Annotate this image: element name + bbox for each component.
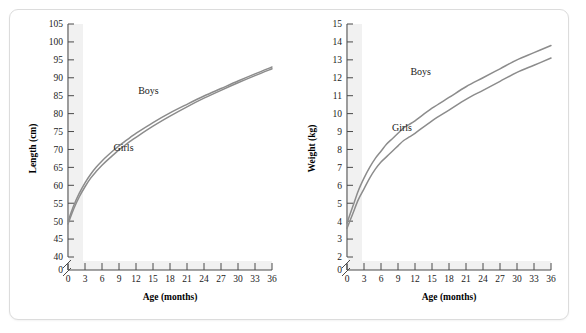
x-tick-label: 0	[66, 274, 71, 284]
x-tick-label: 15	[427, 274, 437, 284]
y-axis-title: Length (cm)	[28, 124, 39, 174]
x-tick-label: 18	[444, 274, 454, 284]
y-tick-label: 3	[337, 234, 342, 244]
weight-chart: 2345678910111213141500369121518212427303…	[289, 10, 569, 321]
x-tick-label: 21	[461, 274, 471, 284]
y-tick-label: 12	[333, 73, 343, 83]
y-tick-label: 65	[54, 163, 64, 173]
series-line-girls	[347, 58, 551, 228]
y-tick-label: 80	[54, 109, 64, 119]
x-tick-label: 18	[165, 274, 175, 284]
y-tick-label: 11	[333, 91, 342, 101]
series-label-girls: Girls	[114, 142, 134, 153]
x-tick-label: 9	[396, 274, 401, 284]
y-tick-label: 50	[54, 217, 64, 227]
y-tick-label: 15	[333, 19, 343, 29]
y-tick-label: 9	[337, 127, 342, 137]
x-tick-label: 15	[148, 274, 158, 284]
y-tick-label: 105	[49, 19, 64, 29]
y-axis-title: Weight (kg)	[307, 125, 318, 173]
x-tick-label: 33	[529, 274, 539, 284]
series-line-girls	[68, 69, 272, 224]
x-tick-label: 9	[117, 274, 122, 284]
y-tick-label: 5	[337, 199, 342, 209]
y-tick-label: 10	[333, 109, 343, 119]
x-tick-label: 3	[362, 274, 367, 284]
x-axis-title: Age (months)	[143, 292, 198, 303]
y-tick-label: 75	[54, 127, 64, 137]
y-tick-label: 8	[337, 145, 342, 155]
x-tick-label: 30	[233, 274, 243, 284]
x-tick-label: 21	[182, 274, 192, 284]
x-tick-label: 27	[495, 274, 505, 284]
x-tick-label: 33	[250, 274, 260, 284]
series-label-girls: Girls	[392, 122, 412, 133]
y-tick-label: 85	[54, 91, 64, 101]
x-tick-label: 3	[83, 274, 88, 284]
x-tick-label: 30	[512, 274, 522, 284]
x-tick-label: 27	[216, 274, 226, 284]
series-label-boys: Boys	[410, 66, 431, 77]
y-zero-label: 0	[337, 265, 342, 275]
y-zero-label: 0	[58, 265, 63, 275]
x-tick-label: 0	[345, 274, 350, 284]
series-line-boys	[347, 46, 551, 223]
y-tick-label: 60	[54, 181, 64, 191]
x-tick-label: 12	[410, 274, 420, 284]
chart-panel-weight: 2345678910111213141500369121518212427303…	[289, 10, 568, 319]
length-chart: 4045505560657075808590951001050036912151…	[10, 10, 290, 321]
series-label-boys: Boys	[138, 85, 159, 96]
y-tick-label: 14	[333, 37, 343, 47]
x-tick-label: 24	[199, 274, 209, 284]
x-tick-label: 12	[131, 274, 141, 284]
y-tick-label: 7	[337, 163, 342, 173]
x-tick-label: 6	[100, 274, 105, 284]
figure-card: 4045505560657075808590951001050036912151…	[9, 9, 569, 320]
y-tick-label: 70	[54, 145, 64, 155]
y-tick-label: 95	[54, 55, 64, 65]
chart-panel-length: 4045505560657075808590951001050036912151…	[10, 10, 289, 319]
y-tick-label: 13	[333, 55, 343, 65]
x-tick-label: 6	[379, 274, 384, 284]
series-line-boys	[68, 67, 272, 221]
x-tick-label: 36	[267, 274, 277, 284]
y-tick-label: 40	[54, 252, 64, 262]
y-tick-label: 100	[49, 37, 64, 47]
y-tick-label: 2	[337, 252, 342, 262]
y-tick-label: 6	[337, 181, 342, 191]
x-tick-label: 24	[478, 274, 488, 284]
x-tick-label: 36	[546, 274, 556, 284]
y-tick-label: 4	[337, 217, 342, 227]
x-axis-title: Age (months)	[422, 292, 477, 303]
charts-container: 4045505560657075808590951001050036912151…	[10, 10, 568, 319]
y-tick-label: 45	[54, 234, 64, 244]
y-tick-label: 90	[54, 73, 64, 83]
y-tick-label: 55	[54, 199, 64, 209]
